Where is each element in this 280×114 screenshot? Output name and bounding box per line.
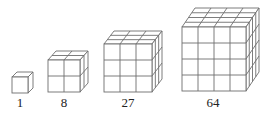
front-face <box>104 44 152 92</box>
cube-label-27: 27 <box>122 96 135 110</box>
cube-8 <box>48 51 88 92</box>
front-face <box>12 77 28 93</box>
cube-label-8: 8 <box>61 96 68 110</box>
cubes-diagram <box>0 0 280 114</box>
cube-64 <box>182 8 259 91</box>
cube-1 <box>12 72 33 93</box>
cube-27 <box>104 31 162 92</box>
cube-label-64: 64 <box>207 96 220 110</box>
cube-label-1: 1 <box>17 96 24 110</box>
